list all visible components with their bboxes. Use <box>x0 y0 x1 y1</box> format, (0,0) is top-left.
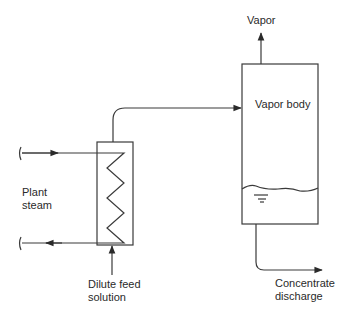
steam-in-break-mark <box>20 147 22 160</box>
heat-exchanger-shell <box>97 142 133 245</box>
vapor-body-label: Vapor body <box>255 98 310 111</box>
concentrate-discharge-arrow <box>256 224 322 270</box>
concentrate-line2: discharge <box>275 290 335 303</box>
concentrate-discharge-label: Concentrate discharge <box>275 277 335 303</box>
vapor-body-vessel <box>242 64 318 224</box>
plant-steam-line2: steam <box>22 199 52 212</box>
dilute-feed-line2: solution <box>88 291 141 304</box>
vapor-label: Vapor <box>247 14 276 27</box>
plant-steam-line1: Plant <box>22 186 52 199</box>
steam-out-break-mark <box>20 237 22 250</box>
hx-to-vapor-body-pipe <box>113 108 241 142</box>
concentrate-line1: Concentrate <box>275 277 335 290</box>
plant-steam-label: Plant steam <box>22 186 52 212</box>
liquid-surface <box>242 185 318 191</box>
dilute-feed-line1: Dilute feed <box>88 278 141 291</box>
dilute-feed-label: Dilute feed solution <box>88 278 141 304</box>
evaporator-diagram <box>0 0 361 314</box>
